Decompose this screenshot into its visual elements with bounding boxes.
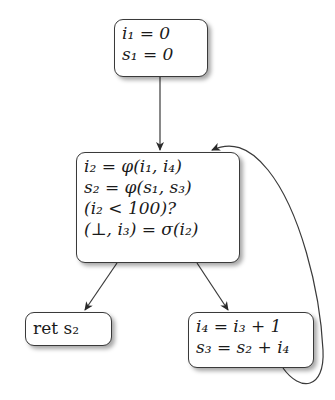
- header-line-3: (i₂ < 100)?: [84, 198, 232, 219]
- cfg-diagram: i₁ = 0 s₁ = 0 i₂ = φ(i₁, i₄) s₂ = φ(s₁, …: [0, 0, 335, 400]
- entry-line-2: s₁ = 0: [122, 44, 200, 65]
- exit-line-1: ret s₂: [33, 318, 104, 339]
- node-loop-body: i₄ = i₃ + 1 s₃ = s₂ + i₄: [188, 312, 314, 368]
- body-line-1: i₄ = i₃ + 1: [196, 316, 306, 337]
- edge-header-to-exit: [85, 263, 117, 310]
- header-line-4: (⊥, i₃) = σ(i₂): [84, 219, 232, 240]
- node-entry: i₁ = 0 s₁ = 0: [114, 19, 208, 77]
- header-line-1: i₂ = φ(i₁, i₄): [84, 156, 232, 177]
- entry-line-1: i₁ = 0: [122, 23, 200, 44]
- body-line-2: s₃ = s₂ + i₄: [196, 337, 306, 358]
- node-loop-header: i₂ = φ(i₁, i₄) s₂ = φ(s₁, s₃) (i₂ < 100)…: [76, 152, 240, 263]
- edge-header-to-body: [197, 263, 228, 310]
- header-line-2: s₂ = φ(s₁, s₃): [84, 177, 232, 198]
- node-exit: ret s₂: [25, 312, 112, 346]
